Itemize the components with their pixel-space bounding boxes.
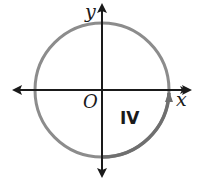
arc-arrowhead-icon — [165, 91, 173, 102]
y-axis-label: y — [85, 0, 96, 22]
quadrant-label: IV — [120, 108, 139, 128]
x-axis-label: x — [176, 88, 187, 110]
origin-label: O — [83, 91, 98, 112]
diagram-canvas: y x O IV — [0, 0, 200, 184]
unit-circle-figure — [0, 0, 200, 184]
